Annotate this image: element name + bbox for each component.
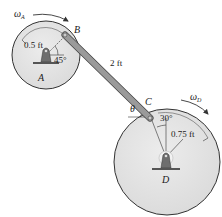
disk-d	[114, 109, 220, 215]
rod-length-label: 2 ft	[110, 59, 122, 68]
point-b-label: B	[74, 25, 80, 35]
omega-a-label: ωA	[14, 9, 25, 20]
disk-d-radius-label: 0.75 ft	[171, 130, 195, 139]
disk-a-angle-label: 45°	[54, 56, 67, 65]
linkage-diagram: ωA B 0.5 ft 45° A 2 ft C θ ωD 30° 0.75 f…	[0, 0, 222, 217]
diagram-graphics	[0, 0, 222, 217]
disk-d-angle-label: 30°	[160, 114, 173, 123]
disk-d-label: D	[162, 175, 169, 185]
omega-d-label: ωD	[190, 92, 201, 103]
point-c-label: C	[145, 97, 152, 107]
rod-bc	[63, 33, 152, 120]
disk-a-radius-label: 0.5 ft	[24, 41, 43, 50]
disk-a	[12, 21, 80, 89]
disk-a-label: A	[38, 73, 44, 83]
omega-a-arrow	[33, 14, 68, 21]
theta-label: θ	[130, 104, 135, 114]
